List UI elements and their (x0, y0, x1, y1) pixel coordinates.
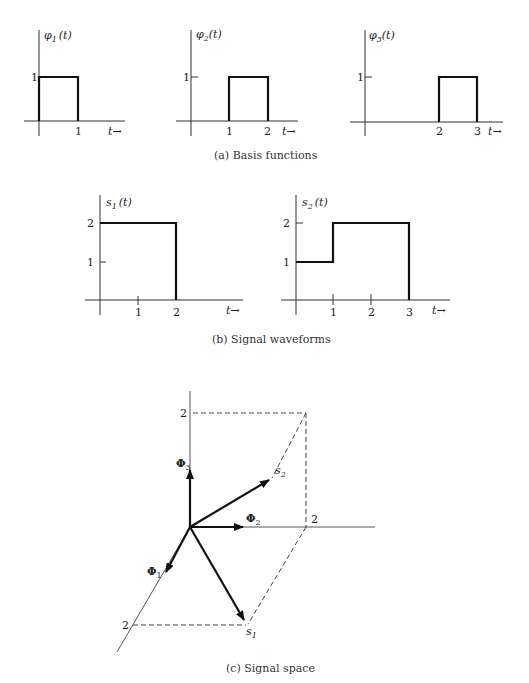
phi2-xlabel: t→ (282, 125, 296, 138)
s1-ytick-2: 2 (87, 217, 94, 230)
phi3-xlabel: t→ (488, 125, 502, 138)
caption-b: (b) Signal waveforms (212, 333, 331, 346)
phi1-arrow (166, 527, 190, 572)
phi2-ylabel: φ2(t) (196, 28, 222, 43)
phi2-label: Φ2 (246, 512, 261, 527)
phi3-xtick-2: 2 (436, 125, 443, 138)
signal-space-dashed (133, 413, 306, 625)
phi3-xtick-3: 3 (474, 125, 481, 138)
plot-s2 (281, 195, 450, 315)
phi2-xtick-1: 1 (226, 125, 233, 138)
s2-ytick-2: 2 (283, 217, 290, 230)
phi2-ytick: 1 (183, 71, 190, 84)
caption-a: (a) Basis functions (214, 149, 318, 162)
s1-label: s1 (246, 625, 257, 640)
figure-canvas: φ1(t) 1 1 t→ φ2(t) 1 1 2 t→ φ3(t) 1 2 3 … (0, 0, 529, 683)
phi3-ylabel: φ3(t) (369, 29, 395, 44)
plot-phi2 (176, 30, 298, 136)
s2-xtick-1: 1 (330, 306, 337, 319)
s1-xtick-1: 1 (135, 306, 142, 319)
caption-c: (c) Signal space (226, 662, 315, 675)
phi1-ylabel: φ1(t) (44, 29, 72, 44)
phi1-xtick: 1 (75, 125, 82, 138)
plot-s1 (85, 195, 243, 315)
phi2-xtick-2: 2 (264, 125, 271, 138)
s2-ylabel: s2(t) (302, 196, 328, 211)
tick-vertical-2: 2 (180, 407, 187, 420)
phi1-ytick: 1 (31, 71, 38, 84)
s1-ylabel: s1(t) (106, 196, 132, 211)
plot-phi1 (24, 30, 125, 136)
s2-xlabel: t→ (432, 304, 446, 317)
s1-xlabel: t→ (226, 304, 240, 317)
s2-xtick-3: 3 (406, 306, 413, 319)
s1-arrow (190, 527, 244, 620)
phi3-label: Φ3 (176, 457, 191, 472)
s1-xtick-2: 2 (173, 306, 180, 319)
s2-label: s2 (275, 464, 286, 479)
signal-space-vectors (166, 470, 269, 620)
s1-ytick-1: 1 (87, 256, 94, 269)
s2-xtick-2: 2 (368, 306, 375, 319)
plot-phi3 (350, 30, 503, 136)
s2-ytick-1: 1 (283, 256, 290, 269)
phi3-ytick: 1 (357, 71, 364, 84)
phi1-xlabel: t→ (108, 125, 122, 138)
tick-diagonal-2: 2 (122, 619, 129, 632)
phi1-label: Φ1 (147, 565, 162, 580)
tick-horizontal-2: 2 (311, 513, 318, 526)
